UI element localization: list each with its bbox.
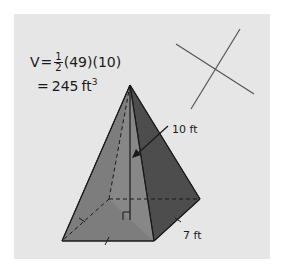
fraction-numerator: 1 — [54, 52, 62, 63]
result-equals-sign: = — [37, 79, 49, 93]
pyramid-diagram — [0, 0, 284, 274]
result-exponent: 3 — [92, 78, 98, 87]
base-side-label: 7 ft — [183, 229, 202, 242]
fraction-denominator: 2 — [55, 63, 61, 73]
base-area-factor: (49) — [64, 55, 93, 69]
formula-line-1: V = 1 2 (49) (10) — [30, 51, 121, 73]
fraction: 1 2 — [54, 52, 62, 73]
result-unit: ft — [81, 79, 91, 93]
square-pyramid — [62, 85, 200, 245]
result-value: 245 — [52, 79, 79, 93]
volume-variable: V — [30, 55, 40, 69]
volume-formula: V = 1 2 (49) (10) = 245 ft 3 — [30, 51, 121, 97]
height-label: 10 ft — [172, 123, 198, 136]
equals-sign: = — [41, 55, 53, 69]
crossing-lines-icon — [176, 29, 254, 109]
height-factor: (10) — [92, 55, 121, 69]
formula-line-2: = 245 ft 3 — [30, 75, 121, 97]
